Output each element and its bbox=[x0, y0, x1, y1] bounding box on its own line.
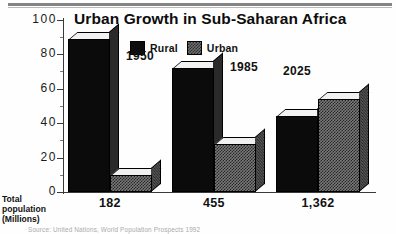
bar-rural-1950 bbox=[68, 39, 110, 192]
y-tick-minor-10 bbox=[60, 175, 63, 176]
bar-front-face bbox=[214, 144, 256, 192]
y-axis-label-80: 80 bbox=[13, 46, 57, 60]
bar-rural-1985 bbox=[172, 68, 214, 192]
bar-front-face bbox=[68, 39, 110, 192]
x-axis-line bbox=[63, 192, 376, 193]
y-tick-minor-30 bbox=[60, 140, 63, 141]
legend-item-urban: Urban bbox=[187, 41, 238, 55]
y-tick-minor-50 bbox=[60, 106, 63, 107]
y-axis-label-100: 100 bbox=[13, 12, 57, 26]
x-axis-value-1362: 1,362 bbox=[283, 196, 353, 210]
bar-front-face bbox=[172, 68, 214, 192]
y-tick-minor-70 bbox=[60, 71, 63, 72]
x-axis-value-455: 455 bbox=[179, 196, 249, 210]
bar-urban-1985 bbox=[214, 144, 256, 192]
bar-urban-1950 bbox=[110, 175, 152, 192]
y-tick-60 bbox=[57, 89, 63, 90]
x-axis-title-line1: Total population bbox=[2, 194, 64, 214]
y-tick-0 bbox=[57, 192, 63, 193]
y-tick-80 bbox=[57, 54, 63, 55]
chart-page: Urban Growth in Sub-Saharan Africa 100 8… bbox=[0, 0, 396, 234]
y-axis-label-60: 60 bbox=[13, 81, 57, 95]
group-year-label-2025: 2025 bbox=[283, 64, 311, 78]
x-axis-title-line2: (Millions) bbox=[2, 214, 64, 224]
bar-side-face bbox=[255, 129, 265, 192]
bar-front-face bbox=[110, 175, 152, 192]
bar-rural-2025 bbox=[276, 116, 318, 192]
bar-side-face bbox=[359, 84, 369, 192]
y-tick-100 bbox=[57, 20, 63, 21]
y-tick-20 bbox=[57, 158, 63, 159]
y-axis-label-40: 40 bbox=[13, 115, 57, 129]
legend-label-rural: Rural bbox=[150, 42, 178, 54]
group-year-label-1985: 1985 bbox=[230, 60, 258, 74]
dithered-gray-swatch-icon bbox=[187, 41, 202, 55]
y-tick-40 bbox=[57, 123, 63, 124]
chart-source-note: Source: United Nations, World Population… bbox=[28, 226, 200, 233]
y-axis-label-20: 20 bbox=[13, 150, 57, 164]
bar-urban-2025 bbox=[318, 99, 360, 192]
y-axis-line bbox=[63, 18, 64, 194]
x-axis-value-182: 182 bbox=[75, 196, 145, 210]
bar-side-face bbox=[151, 160, 161, 192]
chart-plot-area: Urban Growth in Sub-Saharan Africa 100 8… bbox=[0, 0, 396, 234]
x-axis-title: Total population (Millions) bbox=[2, 194, 64, 224]
bar-front-face bbox=[276, 116, 318, 192]
y-tick-minor-90 bbox=[60, 37, 63, 38]
bar-front-face bbox=[318, 99, 360, 192]
group-year-label-1950: 1950 bbox=[126, 49, 154, 63]
bar-side-face bbox=[109, 24, 119, 192]
